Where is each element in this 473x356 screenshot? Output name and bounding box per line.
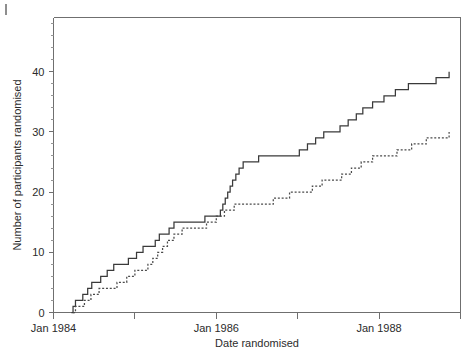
y-tick-label: 40	[32, 66, 44, 78]
page-corner-mark	[5, 4, 7, 15]
y-tick-label: 0	[38, 307, 44, 319]
y-tick-label: 30	[32, 126, 44, 138]
figure-container: 010203040 Jan 1984Jan 1986Jan 1988 Date …	[0, 0, 473, 356]
cumulative-recruitment-chart: 010203040 Jan 1984Jan 1986Jan 1988 Date …	[0, 0, 473, 356]
y-tick-label: 20	[32, 186, 44, 198]
chart-background	[0, 0, 473, 356]
y-axis-title: Number of participants randomised	[11, 79, 23, 250]
x-tick-label: Jan 1986	[194, 322, 239, 334]
y-tick-label: 10	[32, 246, 44, 258]
x-tick-label: Jan 1988	[356, 322, 401, 334]
x-tick-label: Jan 1984	[31, 322, 76, 334]
x-axis-title: Date randomised	[215, 337, 299, 349]
